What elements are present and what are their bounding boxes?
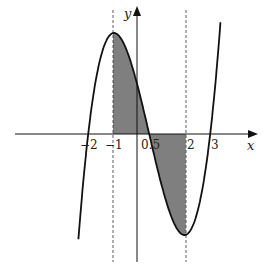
x-axis-arrow-icon: [248, 130, 258, 138]
function-graph: y x −2 −1 0.5 2 3: [0, 0, 270, 275]
tick-label-minus-2: −2: [80, 138, 98, 152]
y-axis-arrow-icon: [133, 6, 141, 16]
x-axis-label: x: [247, 138, 255, 153]
cubic-curve: [78, 22, 220, 239]
tick-label-2: 2: [187, 138, 195, 152]
tick-label-0-5: 0.5: [141, 138, 160, 152]
tick-label-3: 3: [211, 138, 219, 152]
tick-label-minus-1: −1: [105, 138, 123, 152]
y-axis-label: y: [123, 6, 132, 21]
